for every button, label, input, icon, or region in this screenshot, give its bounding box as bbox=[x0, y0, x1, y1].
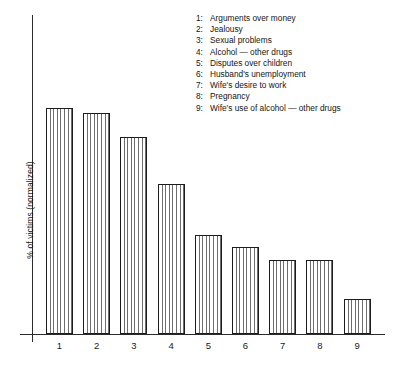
legend-item-key: 6: bbox=[196, 69, 210, 80]
x-tick-label: 4 bbox=[156, 340, 186, 351]
legend-item: 2:Jealousy bbox=[196, 24, 396, 35]
x-axis-line bbox=[20, 334, 385, 335]
bar bbox=[269, 260, 296, 334]
x-tick-label: 7 bbox=[268, 340, 298, 351]
x-tick-label: 8 bbox=[305, 340, 335, 351]
legend-item-label: Pregnancy bbox=[210, 91, 250, 102]
bar bbox=[120, 137, 147, 334]
legend-item: 6:Husband's unemployment bbox=[196, 69, 396, 80]
bar-chart-figure: % of victims (normalized) 123456789 1:Ar… bbox=[0, 0, 403, 366]
bar bbox=[306, 260, 333, 334]
legend-item: 5:Disputes over children bbox=[196, 58, 396, 69]
legend-item-label: Alcohol — other drugs bbox=[210, 47, 292, 58]
legend-item-label: Jealousy bbox=[210, 24, 243, 35]
legend-item-key: 4: bbox=[196, 47, 210, 58]
legend-item-key: 7: bbox=[196, 80, 210, 91]
legend-item: 7:Wife's desire to work bbox=[196, 80, 396, 91]
bar bbox=[195, 235, 222, 334]
legend-item-label: Wife's use of alcohol — other drugs bbox=[210, 103, 341, 114]
legend-item-key: 5: bbox=[196, 58, 210, 69]
legend-item: 1:Arguments over money bbox=[196, 13, 396, 24]
bar bbox=[232, 247, 259, 334]
legend-item-label: Husband's unemployment bbox=[210, 69, 306, 80]
x-tick-label: 3 bbox=[119, 340, 149, 351]
legend-item-key: 9: bbox=[196, 103, 210, 114]
legend-item: 4:Alcohol — other drugs bbox=[196, 47, 396, 58]
x-tick-label: 6 bbox=[231, 340, 261, 351]
x-tick-label: 5 bbox=[193, 340, 223, 351]
chart-legend: 1:Arguments over money2:Jealousy3:Sexual… bbox=[196, 13, 396, 114]
x-tick-label: 2 bbox=[82, 340, 112, 351]
legend-item-key: 3: bbox=[196, 35, 210, 46]
legend-item-key: 8: bbox=[196, 91, 210, 102]
bar bbox=[344, 299, 371, 334]
x-tick-label: 9 bbox=[342, 340, 372, 351]
legend-item-label: Sexual problems bbox=[210, 35, 272, 46]
bar bbox=[158, 184, 185, 334]
legend-item-label: Disputes over children bbox=[210, 58, 292, 69]
legend-item-key: 1: bbox=[196, 13, 210, 24]
legend-item-label: Wife's desire to work bbox=[210, 80, 286, 91]
legend-item: 8:Pregnancy bbox=[196, 91, 396, 102]
bar bbox=[83, 113, 110, 334]
bar bbox=[46, 108, 73, 334]
x-tick-label: 1 bbox=[45, 340, 75, 351]
legend-item: 3:Sexual problems bbox=[196, 35, 396, 46]
legend-item: 9:Wife's use of alcohol — other drugs bbox=[196, 103, 396, 114]
legend-item-label: Arguments over money bbox=[210, 13, 296, 24]
legend-item-key: 2: bbox=[196, 24, 210, 35]
